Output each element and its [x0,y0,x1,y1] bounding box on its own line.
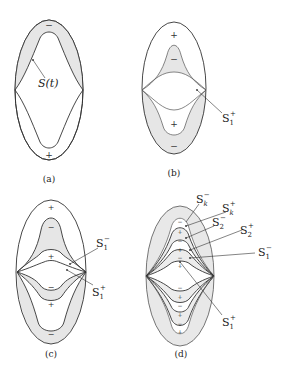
sign-inner-top: − [170,54,178,64]
curve-label-s1-plus: S1+ [222,110,236,127]
label-s1-minus: S1− [96,235,110,252]
caption-a: (a) [43,174,55,184]
label-sup: + [230,314,236,322]
caption-b: (b) [168,168,181,178]
label-sub: k [204,200,208,208]
label-sup: − [204,191,210,199]
label-sub: k [230,209,234,217]
label-s1-plus: S1+ [92,284,106,301]
label-base: S [92,286,100,299]
curve-label-s-t: S(t) [38,77,59,90]
sign-1: + [48,203,55,212]
sign-2: − [48,223,55,232]
label-base: S [96,237,104,250]
label-sup: + [100,284,106,292]
sign-outer-top: + [170,30,178,40]
label-base: S [258,246,266,259]
panel-c: S1− S1+ + − + − + − (c) [16,200,110,359]
label-sk-minus: Sk− [196,191,210,208]
label-sub: 1 [100,293,104,301]
sign-5: + [48,300,55,309]
svg-text:+: + [177,246,182,253]
svg-text:−: − [177,237,182,244]
sign-4: − [48,283,55,292]
label-sub: 1 [266,253,270,261]
panel-d: − + − + − + − + − + − + Sk− Sk+ [146,191,272,359]
sign-top: − [45,20,53,30]
svg-text:+: + [177,311,182,318]
label-sup: + [230,200,236,208]
sign-outer-bottom: − [170,141,178,151]
label-sub: 1 [104,244,108,252]
caption-d: (d) [175,349,188,359]
label-base: S [212,216,220,229]
svg-text:+: + [177,293,182,300]
label-sup: + [230,110,236,118]
label-s1-plus: S1+ [222,314,236,331]
label-sup: + [248,222,254,230]
sign-bottom: + [45,150,53,160]
svg-text:+: + [177,228,182,235]
label-sub: 1 [230,323,234,331]
label-s2-minus: S2− [212,214,226,231]
label-base: S [222,316,230,329]
caption-c: (c) [45,349,57,359]
label-sub: 1 [230,119,234,127]
svg-text:−: − [177,284,182,291]
svg-text:−: − [177,254,182,261]
label-sup: − [104,235,110,243]
svg-text:+: + [177,328,182,335]
label-base: S [240,224,248,237]
sign-inner-bottom: + [170,119,178,129]
label-base: S [222,112,230,125]
label-s2-plus: S2+ [240,222,254,239]
label-s1-minus: S1− [258,244,272,261]
label-sup: − [266,244,272,252]
label-sub: 2 [220,223,224,231]
svg-text:−: − [177,302,182,309]
sign-6: − [48,330,55,339]
label-sup: − [220,214,226,222]
sign-3: + [48,252,55,261]
svg-text:−: − [177,320,182,327]
svg-text:+: + [177,262,182,269]
figure-canvas: S(t) − + (a) S1+ + − + − (b) [0,0,285,376]
label-sub: 2 [248,231,252,239]
svg-text:−: − [177,218,182,225]
panel-b: S1+ + − + − (b) [142,22,236,178]
label-base: S [196,193,204,206]
panel-a: S(t) − + (a) [15,20,83,184]
